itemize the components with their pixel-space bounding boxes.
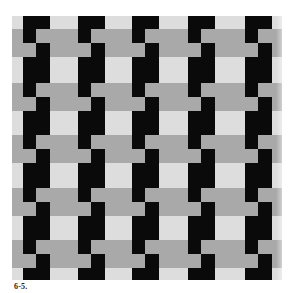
black-warp-left-strip	[78, 188, 91, 202]
black-warp-left-strip	[23, 240, 36, 254]
black-warp-left-strip	[245, 29, 258, 43]
black-warp-left-strip	[188, 135, 201, 149]
black-warp-left-strip	[188, 188, 201, 202]
black-warp-right-strip	[258, 43, 272, 57]
black-warp-left-strip	[78, 135, 91, 149]
black-warp-left-strip	[245, 83, 258, 97]
gray-weft-band-upper	[12, 135, 282, 149]
black-warp-left-strip	[23, 188, 36, 202]
black-warp-right-strip	[201, 97, 215, 111]
figure-caption: 6-5.	[14, 282, 27, 291]
black-warp-left-strip	[23, 29, 36, 43]
woven-textile-sample	[12, 16, 282, 280]
gray-weft-band-upper	[12, 29, 282, 43]
black-warp-right-strip	[201, 149, 215, 163]
black-warp-right-strip	[258, 149, 272, 163]
black-warp-right-strip	[91, 254, 105, 268]
black-warp-left-strip	[23, 83, 36, 97]
gray-weft-band-upper	[12, 188, 282, 202]
black-warp-left-strip	[245, 188, 258, 202]
black-warp-right-strip	[258, 97, 272, 111]
black-warp-left-strip	[78, 240, 91, 254]
black-warp-right-strip	[145, 202, 159, 216]
black-warp-left-strip	[188, 29, 201, 43]
black-warp-right-strip	[36, 43, 50, 57]
black-warp-right-strip	[201, 43, 215, 57]
black-warp-right-strip	[91, 43, 105, 57]
black-warp-right-strip	[91, 202, 105, 216]
black-warp-right-strip	[36, 149, 50, 163]
black-warp-left-strip	[23, 135, 36, 149]
black-warp-left-strip	[188, 83, 201, 97]
black-warp-right-strip	[201, 254, 215, 268]
black-warp-right-strip	[145, 149, 159, 163]
black-warp-right-strip	[145, 97, 159, 111]
black-warp-left-strip	[132, 188, 145, 202]
black-warp-right-strip	[258, 254, 272, 268]
gray-weft-band-upper	[12, 240, 282, 254]
black-warp-left-strip	[245, 240, 258, 254]
black-warp-right-strip	[201, 202, 215, 216]
black-warp-left-strip	[78, 29, 91, 43]
black-warp-left-strip	[132, 240, 145, 254]
black-warp-right-strip	[145, 43, 159, 57]
black-warp-right-strip	[91, 97, 105, 111]
gray-weft-band-upper	[12, 83, 282, 97]
black-warp-left-strip	[188, 240, 201, 254]
black-warp-right-strip	[258, 202, 272, 216]
black-warp-left-strip	[132, 29, 145, 43]
black-warp-right-strip	[91, 149, 105, 163]
black-warp-right-strip	[145, 254, 159, 268]
black-warp-left-strip	[78, 83, 91, 97]
black-warp-left-strip	[245, 135, 258, 149]
black-warp-right-strip	[36, 202, 50, 216]
black-warp-right-strip	[36, 97, 50, 111]
black-warp-left-strip	[132, 135, 145, 149]
black-warp-left-strip	[132, 83, 145, 97]
black-warp-right-strip	[36, 254, 50, 268]
